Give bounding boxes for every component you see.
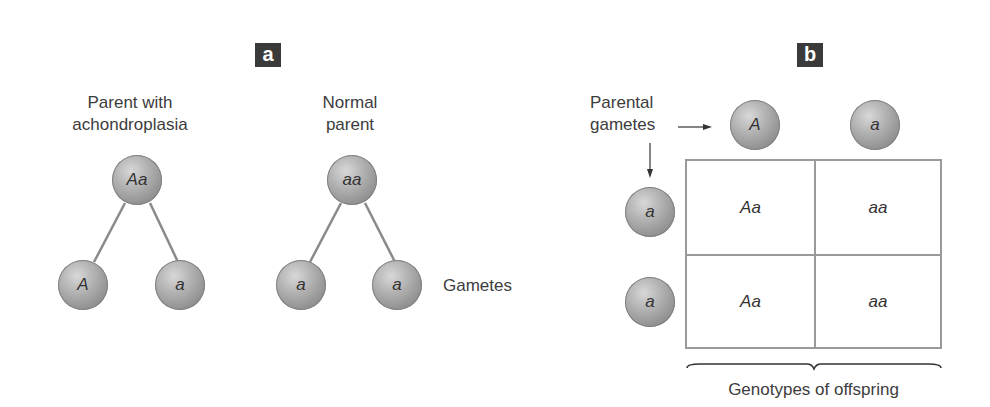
punnett-cell: Aa	[687, 256, 814, 347]
side-gamete-ball: a	[625, 277, 675, 327]
gametes-label: Gametes	[443, 275, 512, 297]
parent1-genotype-ball: Aa	[112, 155, 162, 205]
top-gamete-ball: a	[850, 100, 900, 150]
parent2-genotype-ball: aa	[327, 155, 377, 205]
parent1-gamete-ball: A	[58, 260, 108, 310]
parental-gametes-line2: gametes	[590, 114, 655, 136]
side-gamete-ball: a	[625, 187, 675, 237]
top-gamete-ball: A	[730, 100, 780, 150]
panel-b-label: b	[797, 43, 823, 67]
parental-gametes-label: Parental gametes	[590, 92, 655, 136]
parent2-title: Normal parent	[290, 92, 410, 136]
parent2-gamete-ball: a	[372, 260, 422, 310]
punnett-cell: aa	[816, 161, 940, 254]
parent1-title-line2: achondroplasia	[50, 114, 210, 136]
parent2-title-line1: Normal	[290, 92, 410, 114]
punnett-cell: aa	[816, 256, 940, 347]
punnett-cell: Aa	[687, 161, 814, 254]
parent1-gamete-ball: a	[155, 260, 205, 310]
parent2-title-line2: parent	[290, 114, 410, 136]
parental-gametes-line1: Parental	[590, 92, 655, 114]
parent2-gamete-ball: a	[276, 260, 326, 310]
parent1-title: Parent with achondroplasia	[50, 92, 210, 136]
parent1-title-line1: Parent with	[50, 92, 210, 114]
punnett-square: Aa aa Aa aa	[685, 159, 942, 349]
offspring-label: Genotypes of offspring	[685, 379, 942, 401]
panel-a-label: a	[255, 43, 281, 67]
